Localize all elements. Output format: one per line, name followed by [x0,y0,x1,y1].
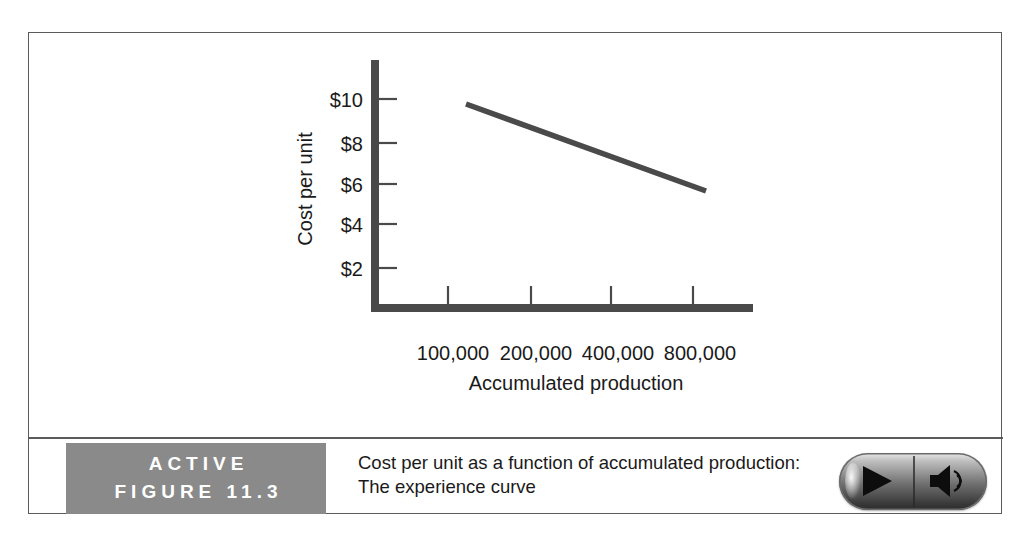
play-button[interactable] [839,453,913,510]
y-axis-title: Cost per unit [294,132,316,246]
active-badge-line2: FIGURE 11.3 [110,478,283,506]
y-tick-label-8: $8 [341,133,363,155]
figure-frame: $10 $8 $6 $4 $2 Cost per unit 100,000 20… [28,32,1002,514]
play-icon [858,464,894,498]
x-tick-label-400000: 400,000 [582,342,654,364]
x-tick-label-100000: 100,000 [417,342,489,364]
media-button-divider [913,456,915,507]
active-figure-badge: ACTIVE FIGURE 11.3 [66,443,326,514]
x-axis-line [371,304,753,312]
y-axis-ticks [379,99,397,268]
y-axis-line [371,60,379,312]
x-tick-label-800000: 800,000 [664,342,736,364]
x-tick-label-200000: 200,000 [500,342,572,364]
x-axis-ticks [448,286,693,304]
y-tick-label-6: $6 [341,174,363,196]
caption-bar: ACTIVE FIGURE 11.3 Cost per unit as a fu… [29,439,1003,514]
figure-caption: Cost per unit as a function of accumulat… [358,451,818,500]
chart-plot-area: $10 $8 $6 $4 $2 Cost per unit 100,000 20… [29,33,1003,437]
figure-screenshot: $10 $8 $6 $4 $2 Cost per unit 100,000 20… [0,0,1032,541]
x-axis-title: Accumulated production [469,372,684,394]
experience-curve-line [466,104,706,191]
y-tick-label-10: $10 [330,89,363,111]
speaker-icon [928,464,972,498]
experience-curve-chart: $10 $8 $6 $4 $2 Cost per unit 100,000 20… [29,33,1003,437]
y-tick-label-2: $2 [341,258,363,280]
y-tick-label-4: $4 [341,214,363,236]
sound-button[interactable] [913,453,987,510]
active-badge-line1: ACTIVE [144,450,249,478]
media-control-button[interactable] [839,453,987,510]
